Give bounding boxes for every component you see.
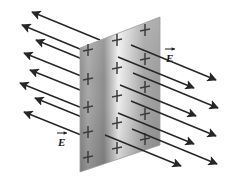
electric-field-diagram: E E (0, 0, 233, 187)
diagram-canvas: E E (0, 0, 233, 187)
field-label-right-text: E (165, 52, 173, 64)
field-label-left-text: E (57, 136, 65, 148)
